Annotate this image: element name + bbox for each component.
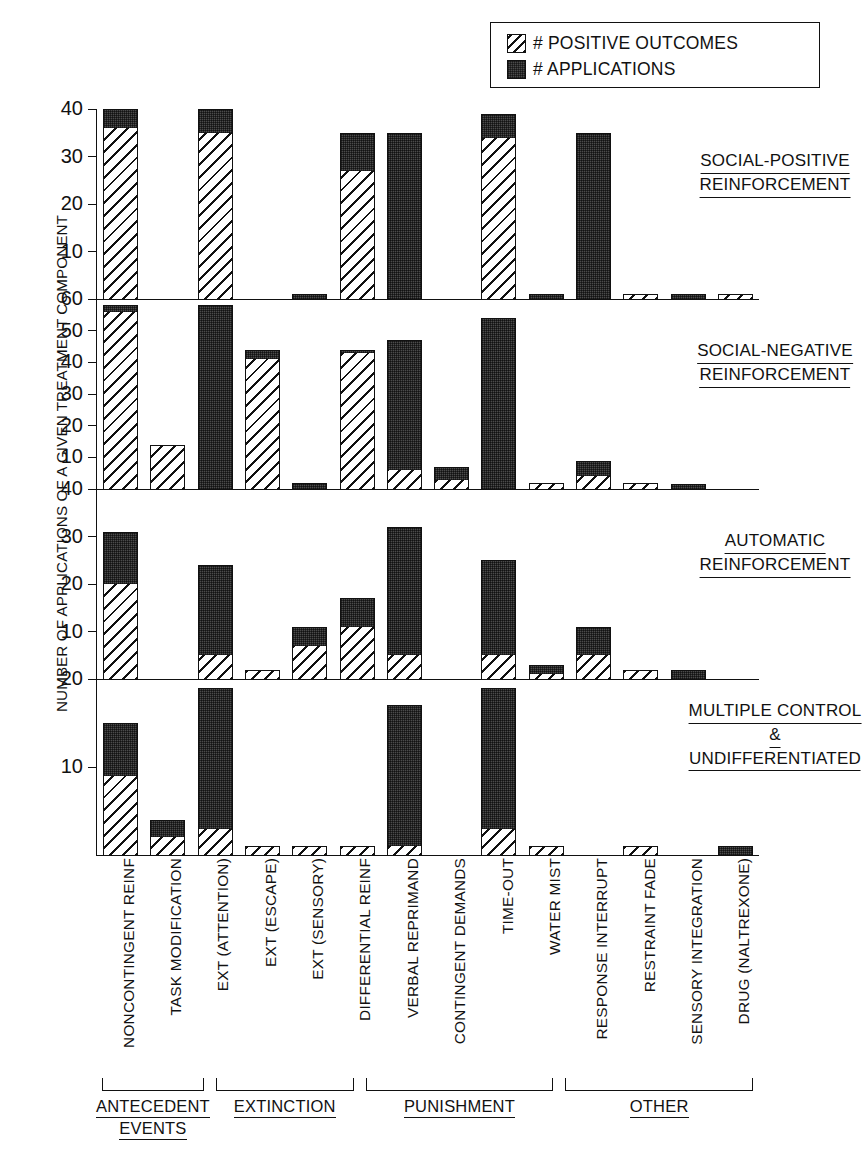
bar-segment-positive-outcomes	[576, 655, 611, 679]
y-tick-mark	[88, 536, 97, 537]
bar-segment-positive-outcomes	[103, 584, 138, 679]
bar-segment-positive-outcomes	[292, 646, 327, 679]
bar-segment-positive-outcomes	[103, 312, 138, 489]
bar-slot	[333, 490, 380, 679]
x-label-slot: DIFFERENTIAL REINF	[333, 856, 380, 1068]
bar-slot	[523, 490, 570, 679]
bar	[340, 598, 375, 679]
x-axis-tick-label: WATER MIST	[546, 858, 564, 955]
bar-slot	[144, 300, 191, 489]
y-tick-mark	[88, 584, 97, 585]
bar-segment-applications	[387, 340, 422, 470]
bar-segment-positive-outcomes	[387, 655, 422, 679]
bar-segment-positive-outcomes	[623, 294, 658, 299]
y-tick-mark	[88, 362, 97, 363]
bar-slot	[381, 680, 428, 855]
x-axis-tick-label: EXT (SENSORY)	[309, 858, 327, 980]
bar-slot	[286, 680, 333, 855]
x-label-slot: RESPONSE INTERRUPT	[570, 856, 617, 1068]
legend-label-positive-outcomes: # POSITIVE OUTCOMES	[533, 33, 738, 54]
bar	[103, 109, 138, 299]
bar	[671, 294, 706, 299]
bar	[103, 532, 138, 679]
y-tick-mark	[88, 457, 97, 458]
bar-segment-applications	[481, 114, 516, 138]
panel-2: 102030405060	[96, 300, 759, 490]
bar-slot	[617, 110, 664, 299]
bar	[576, 627, 611, 679]
bar-segment-positive-outcomes	[340, 627, 375, 679]
bar-slot	[286, 300, 333, 489]
bar-segment-positive-outcomes	[623, 483, 658, 489]
x-axis-tick-label: TASK MODIFICATION	[167, 858, 185, 1016]
plot-area-2: 102030405060	[96, 300, 759, 490]
y-tick-label: 10	[61, 621, 83, 641]
panel-label-line: SOCIAL-POSITIVE	[700, 150, 849, 174]
bar	[292, 483, 327, 489]
bar	[150, 445, 185, 489]
bar-slot	[192, 110, 239, 299]
bar-slot	[333, 680, 380, 855]
panel-label-3: AUTOMATICREINFORCEMENT	[700, 530, 851, 578]
x-axis-tick-label: DIFFERENTIAL REINF	[356, 858, 374, 1021]
y-tick-label: 30	[61, 146, 83, 166]
x-axis-tick-label: EXT (ESCAPE)	[262, 858, 280, 967]
y-tick-mark	[88, 767, 97, 768]
bar-slot	[192, 680, 239, 855]
bar	[245, 846, 280, 855]
bar	[150, 820, 185, 855]
bar-slot	[428, 680, 475, 855]
bar-segment-applications	[292, 627, 327, 646]
bar-slot	[97, 680, 144, 855]
x-axis-tick-label: EXT (ATTENTION)	[214, 858, 232, 991]
bar-slot	[192, 300, 239, 489]
bar	[529, 846, 564, 855]
bar-slot	[617, 680, 664, 855]
bar-slot	[239, 680, 286, 855]
bar-slot	[475, 490, 522, 679]
group-bracket-icon	[366, 1078, 554, 1091]
legend-label-applications: # APPLICATIONS	[533, 59, 676, 80]
bar-segment-applications	[198, 305, 233, 489]
bar-segment-applications	[718, 846, 753, 855]
bar-slot	[239, 110, 286, 299]
bar-segment-applications	[529, 294, 564, 299]
bar-slot	[570, 110, 617, 299]
bar-slot	[239, 300, 286, 489]
bar-segment-positive-outcomes	[340, 846, 375, 855]
bar-segment-positive-outcomes	[292, 846, 327, 855]
group-bracket-icon	[565, 1078, 753, 1091]
group-label-line: OTHER	[630, 1096, 689, 1118]
bar	[623, 294, 658, 299]
y-tick-mark	[88, 251, 97, 252]
y-tick-mark	[88, 330, 97, 331]
bar-slot	[381, 110, 428, 299]
bar-segment-applications	[198, 688, 233, 829]
bar	[434, 467, 469, 489]
panel-label-line: REINFORCEMENT	[700, 174, 851, 198]
panel-label-line: REINFORCEMENT	[700, 364, 851, 388]
y-tick-mark	[88, 109, 97, 110]
panel-1: 10203040	[96, 110, 759, 300]
bar	[292, 627, 327, 679]
x-label-slot: RESTRAINT FADE	[617, 856, 664, 1068]
bar-segment-positive-outcomes	[623, 670, 658, 680]
bar-segment-applications	[576, 627, 611, 656]
bar-slot	[712, 490, 759, 679]
panel-label-line: MULTIPLE CONTROL	[689, 700, 862, 724]
y-tick-label: 60	[61, 288, 83, 308]
bar-segment-applications	[198, 109, 233, 133]
group-2: EXTINCTION	[210, 1078, 360, 1162]
bar	[245, 670, 280, 680]
y-tick-label: 40	[61, 478, 83, 498]
bar-slot	[617, 300, 664, 489]
bar-segment-applications	[529, 665, 564, 674]
x-axis-tick-label: SENSORY INTEGRATION	[688, 858, 706, 1045]
x-axis-tick-label: TIME-OUT	[499, 858, 517, 934]
bar-segment-positive-outcomes	[529, 846, 564, 855]
bar-slot	[570, 680, 617, 855]
bar-segment-positive-outcomes	[150, 837, 185, 855]
bar	[245, 350, 280, 489]
x-axis-tick-label: NONCONTINGENT REINF	[120, 858, 138, 1048]
bar-segment-positive-outcomes	[387, 470, 422, 489]
